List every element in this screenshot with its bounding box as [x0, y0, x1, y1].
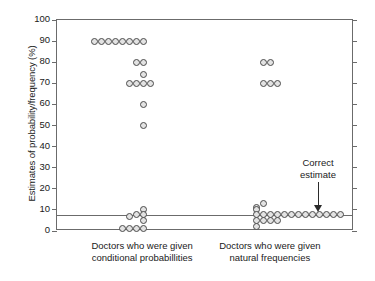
axis-tick-mark — [352, 125, 357, 126]
data-point — [274, 217, 281, 224]
axis-tick-mark — [52, 209, 57, 210]
axis-tick-mark — [52, 231, 57, 232]
data-point — [140, 225, 147, 232]
axis-tick-mark — [352, 62, 357, 63]
correct-estimate-annotation-line2: estimate — [283, 169, 353, 181]
axis-tick-mark — [352, 146, 357, 147]
axis-tick-mark — [52, 20, 57, 21]
y-axis-tick-label: 50 — [26, 120, 50, 129]
data-point — [105, 38, 112, 45]
axis-tick-mark — [352, 83, 357, 84]
data-point — [133, 38, 140, 45]
data-point — [147, 80, 154, 87]
data-point — [267, 59, 274, 66]
y-axis-tick-label: 40 — [26, 141, 50, 150]
axis-tick-mark — [52, 104, 57, 105]
y-axis-tick-label: 90 — [26, 35, 50, 44]
y-axis-tick-label: 20 — [26, 183, 50, 192]
axis-tick-mark — [352, 41, 357, 42]
data-point — [119, 225, 126, 232]
data-point — [133, 211, 140, 218]
data-point — [253, 223, 260, 230]
y-axis-tick-label: 0 — [26, 225, 50, 234]
data-point — [140, 80, 147, 87]
data-point — [126, 38, 133, 45]
data-point — [98, 38, 105, 45]
data-point — [140, 59, 147, 66]
data-point — [140, 217, 147, 224]
axis-tick-mark — [52, 125, 57, 126]
y-axis-tick-label: 30 — [26, 162, 50, 171]
data-point — [274, 80, 281, 87]
data-point — [133, 225, 140, 232]
data-point — [119, 38, 126, 45]
y-axis-tick-label: 60 — [26, 98, 50, 107]
x-axis-label-group-2-line1: Doctors who were given — [185, 240, 355, 252]
data-point — [140, 122, 147, 129]
data-point — [260, 200, 267, 207]
axis-tick-mark — [352, 231, 357, 232]
axis-tick-mark — [52, 146, 57, 147]
data-point — [140, 38, 147, 45]
axis-tick-mark — [52, 167, 57, 168]
data-point — [337, 211, 344, 218]
y-axis-tick-labels: 0102030405060708090100 — [26, 0, 50, 281]
data-point — [126, 80, 133, 87]
axis-tick-mark — [352, 188, 357, 189]
correct-estimate-annotation-line1: Correct — [283, 157, 353, 169]
data-point — [133, 80, 140, 87]
data-point — [140, 71, 147, 78]
annotation-arrow-head-icon — [314, 205, 322, 212]
chart-figure: Estimates of probability/frequency (%) 0… — [0, 0, 375, 281]
axis-tick-mark — [52, 41, 57, 42]
data-point — [112, 38, 119, 45]
axis-tick-mark — [52, 188, 57, 189]
y-axis-tick-label: 10 — [26, 204, 50, 213]
data-point — [91, 38, 98, 45]
data-point — [133, 59, 140, 66]
data-point — [126, 225, 133, 232]
y-axis-tick-label: 100 — [26, 14, 50, 23]
y-axis-tick-label: 80 — [26, 56, 50, 65]
axis-tick-mark — [52, 83, 57, 84]
y-axis-tick-label: 70 — [26, 77, 50, 86]
plot-area — [56, 19, 353, 230]
axis-tick-mark — [352, 209, 357, 210]
data-point — [126, 213, 133, 220]
axis-tick-mark — [52, 62, 57, 63]
axis-tick-mark — [352, 104, 357, 105]
x-axis-label-group-2-line2: natural frequencies — [185, 252, 355, 264]
axis-tick-mark — [352, 20, 357, 21]
correct-estimate-annotation: Correct estimate — [283, 157, 353, 180]
x-axis-label-group-2: Doctors who were given natural frequenci… — [185, 240, 355, 263]
data-point — [140, 101, 147, 108]
